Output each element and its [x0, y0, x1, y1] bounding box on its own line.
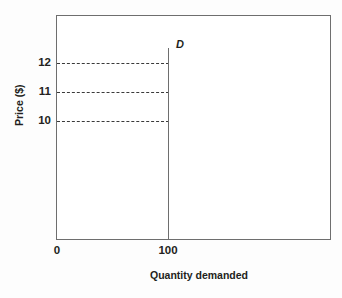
x-axis-title: Quantity demanded	[0, 270, 342, 281]
price-guide-line-10	[57, 121, 169, 122]
y-tick-label-12: 12	[38, 57, 51, 69]
y-tick-label-10: 10	[38, 115, 51, 127]
demand-curve-figure: Price ($) 12 11 10 D 0 100 Quantity dema…	[0, 0, 342, 298]
price-guide-line-11	[57, 92, 169, 93]
price-guide-line-12	[57, 63, 169, 64]
y-tick-label-11: 11	[39, 86, 51, 98]
y-axis-tick-labels: 12 11 10	[0, 0, 51, 298]
x-tick-label-100: 100	[158, 245, 177, 257]
plot-area: D	[56, 15, 331, 240]
demand-curve-line	[168, 48, 169, 240]
x-tick-label-0: 0	[54, 245, 60, 257]
demand-curve-label: D	[176, 39, 184, 50]
